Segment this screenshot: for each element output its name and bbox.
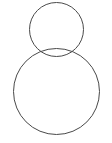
figure-canvas <box>0 0 112 143</box>
diagram-background <box>0 0 112 143</box>
circles-diagram <box>0 0 112 143</box>
